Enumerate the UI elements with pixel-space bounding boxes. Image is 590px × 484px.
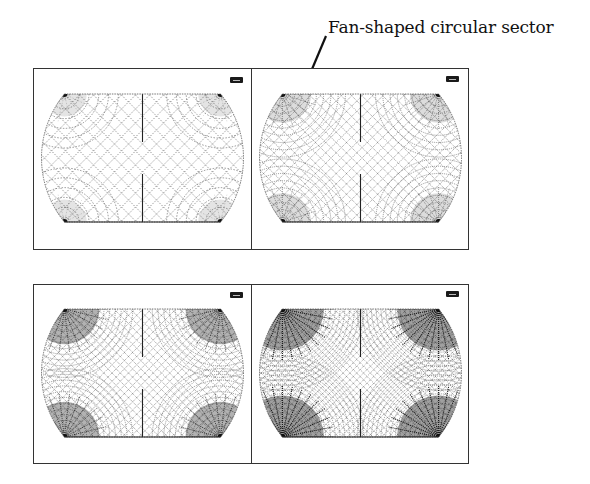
panel-badge-icon: [446, 291, 459, 297]
mesh-diagram-d: [252, 285, 469, 463]
mesh-panel-a: [34, 69, 251, 249]
mesh-diagram-c: [34, 285, 251, 463]
panel-badge-icon: [230, 77, 243, 83]
mesh-diagram-b: [252, 69, 469, 249]
mesh-panel-d: [251, 285, 468, 463]
panel-badge-icon: [446, 76, 459, 82]
mesh-diagram-a: [34, 69, 251, 249]
figure-row-bottom: [33, 284, 469, 464]
figure-row-top: [33, 68, 469, 250]
mesh-panel-c: [34, 285, 251, 463]
mesh-panel-b: [251, 69, 468, 249]
panel-badge-icon: [230, 292, 243, 298]
